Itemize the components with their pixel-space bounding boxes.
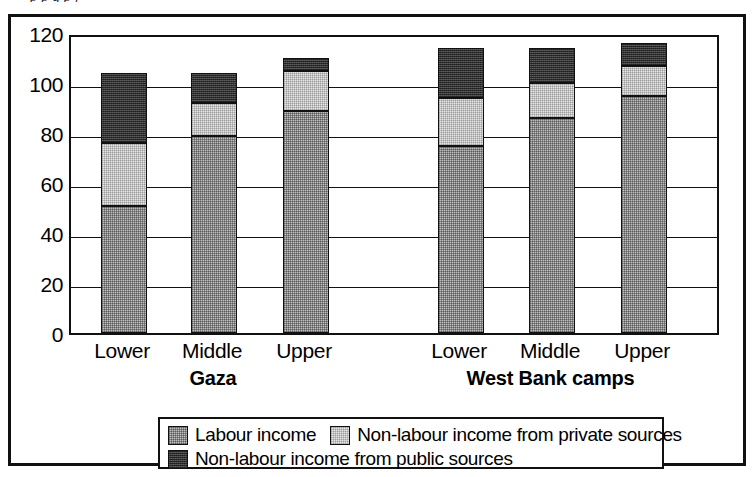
legend-item-public-sources: Non-labour income from public sources: [168, 448, 513, 470]
bar-segment-non-labour-private: [101, 143, 147, 206]
x-axis-label: Upper: [587, 339, 697, 363]
bar-segment-non-labour-public: [529, 48, 575, 83]
group-labels: GazaWest Bank camps: [69, 367, 719, 393]
y-axis: 120100806040200: [11, 35, 63, 335]
y-axis-tick-label: 80: [40, 123, 63, 147]
caption-fragment: p p g p j: [0, 0, 756, 2]
bar-column: [101, 73, 147, 333]
y-axis-tick-label: 0: [52, 323, 63, 347]
bar-segment-non-labour-private: [283, 71, 329, 111]
bar-segment-labour-income: [438, 146, 484, 334]
legend-swatch-private-sources: [330, 426, 350, 445]
bar-segment-non-labour-private: [191, 103, 237, 136]
legend-label-labour-income: Labour income: [195, 424, 316, 446]
y-axis-tick-label: 40: [40, 223, 63, 247]
chart-frame: 120100806040200 LowerMiddleUpperLowerMid…: [8, 14, 746, 466]
legend-row-2: Non-labour income from public sources: [168, 447, 656, 471]
y-axis-tick-label: 100: [29, 73, 63, 97]
legend-swatch-public-sources: [168, 450, 188, 469]
bar-segment-non-labour-public: [191, 73, 237, 103]
bar-segment-labour-income: [529, 118, 575, 333]
bar-segment-non-labour-public: [438, 48, 484, 98]
bar-segment-labour-income: [191, 136, 237, 334]
bar-column: [438, 48, 484, 333]
legend: Labour income Non-labour income from pri…: [158, 417, 664, 469]
bar-segment-non-labour-private: [621, 66, 667, 96]
bar-segment-labour-income: [283, 111, 329, 334]
y-axis-tick-label: 120: [29, 23, 63, 47]
legend-item-labour-income: Labour income: [168, 424, 316, 446]
bar-column: [191, 73, 237, 333]
bar-column: [621, 43, 667, 333]
bar-segment-non-labour-public: [101, 73, 147, 143]
bar-segment-labour-income: [101, 206, 147, 334]
bar-column: [529, 48, 575, 333]
bar-segment-non-labour-public: [621, 43, 667, 66]
group-label: West Bank camps: [441, 367, 661, 390]
bars-layer: [71, 37, 717, 333]
legend-label-private-sources: Non-labour income from private sources: [357, 424, 682, 446]
bar-column: [283, 58, 329, 333]
bar-segment-non-labour-private: [529, 83, 575, 118]
legend-label-public-sources: Non-labour income from public sources: [195, 448, 513, 470]
legend-row-1: Labour income Non-labour income from pri…: [168, 423, 656, 447]
figure-page: p p g p j 120100806040200 LowerMiddleUpp…: [0, 0, 756, 477]
bar-segment-non-labour-public: [283, 58, 329, 71]
bar-segment-labour-income: [621, 96, 667, 334]
x-axis-label: Upper: [249, 339, 359, 363]
bar-segment-non-labour-private: [438, 98, 484, 146]
x-axis-labels: LowerMiddleUpperLowerMiddleUpper: [69, 339, 719, 365]
legend-item-private-sources: Non-labour income from private sources: [330, 424, 682, 446]
legend-swatch-labour-income: [168, 426, 188, 445]
plot-area: [69, 35, 719, 335]
y-axis-tick-label: 20: [40, 273, 63, 297]
y-axis-tick-label: 60: [40, 173, 63, 197]
group-label: Gaza: [103, 367, 323, 390]
